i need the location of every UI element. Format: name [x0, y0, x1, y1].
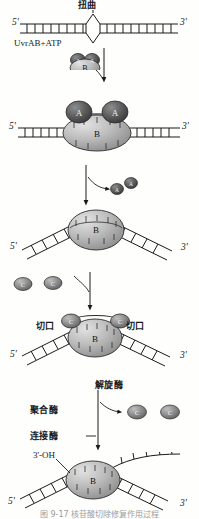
label-three-prime-p2: 3' [182, 122, 189, 132]
dna-duplex-right-p2 [130, 128, 180, 137]
released-uvra-subunits: A A [111, 178, 138, 195]
label-three-prime-p1: 3' [180, 18, 187, 28]
label-three-prime-p4: 3' [180, 351, 187, 361]
complex-binding-hook [96, 70, 103, 79]
helicase-release-arrow [100, 402, 120, 412]
label-ligase: 连接酶 [30, 432, 58, 441]
panel-4-graphic: B C C [0, 312, 199, 380]
newly-synthesized-strand [112, 452, 180, 468]
uvrb-label-p4: B [92, 334, 98, 344]
free-uvrc-subunits: C C [14, 277, 62, 291]
label-five-prime-p4: 5' [10, 350, 17, 360]
label-helicase: 解旋酶 [95, 381, 123, 390]
label-nick-left: 切口 [36, 322, 55, 331]
label-five-prime-p6: 5' [8, 497, 15, 507]
svg-text:C: C [69, 318, 74, 326]
label-distortion: 扭曲 [78, 1, 97, 10]
label-uvrab-atp: UvrAB+ATP [14, 39, 62, 48]
panel-1-to-2-arrow [0, 48, 199, 98]
svg-text:A: A [115, 187, 119, 193]
panel-3-graphic: B [0, 200, 199, 272]
panel-6-graphic: B [0, 452, 199, 514]
released-uvrc-subunits: C C [128, 405, 180, 419]
svg-text:C: C [118, 318, 123, 326]
label-nick-right: 切口 [126, 322, 145, 331]
label-five-prime-p3: 5' [10, 242, 17, 252]
svg-text:C: C [21, 281, 25, 288]
svg-text:C: C [168, 409, 173, 417]
svg-text:C: C [135, 409, 140, 417]
svg-text:A: A [129, 181, 133, 187]
label-five-prime-p1: 5' [12, 18, 19, 28]
ner-pathway-figure: A A B 扭曲 5' 3' UvrAB+ATP [0, 0, 199, 519]
uvrb-label-p3: B [93, 225, 99, 235]
three-prime-oh-leader [56, 459, 70, 473]
label-polymerase: 聚合酶 [30, 406, 58, 415]
svg-text:A: A [76, 108, 83, 118]
panel-2-graphic: B A A [0, 100, 199, 170]
label-three-prime-p3: 3' [181, 243, 188, 253]
dna-distortion-bubble [86, 14, 100, 43]
dna-duplex-left [20, 24, 86, 33]
label-three-prime-oh: 3'-OH [33, 451, 55, 460]
uvrb-label-p6: B [90, 476, 96, 486]
c-binding-hook [74, 276, 89, 292]
label-five-prime-p2: 5' [9, 122, 16, 132]
svg-text:A: A [112, 108, 119, 118]
panel-3-to-4-arrow: C C [0, 270, 199, 316]
svg-text:C: C [51, 280, 55, 287]
uvrb-label-p2: B [94, 129, 100, 139]
dna-duplex-right [100, 24, 178, 33]
dna-duplex-left-p2 [18, 128, 64, 137]
a-release-arrow [88, 177, 108, 189]
figure-caption: 图 9-17 核苷酸切除修复作用过程 [0, 508, 199, 519]
